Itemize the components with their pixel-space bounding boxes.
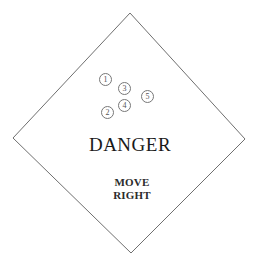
instruction-text: MOVE RIGHT — [0, 176, 256, 201]
marker-circle-1[interactable]: 1 — [99, 73, 112, 86]
marker-circle-3[interactable]: 3 — [118, 82, 131, 95]
marker-label-1: 1 — [104, 75, 108, 84]
diamond-outline-shape — [0, 0, 256, 263]
danger-title: DANGER — [0, 134, 256, 156]
instruction-line-1: MOVE — [8, 176, 256, 189]
instruction-line-2: RIGHT — [8, 189, 256, 202]
marker-label-5: 5 — [146, 92, 150, 101]
warning-sign: 1 2 3 4 5 DANGER MOVE RIGHT — [0, 0, 256, 263]
diamond-polygon — [13, 13, 245, 253]
marker-label-2: 2 — [106, 108, 110, 117]
marker-label-3: 3 — [123, 84, 127, 93]
marker-circle-5[interactable]: 5 — [141, 90, 154, 103]
marker-label-4: 4 — [123, 101, 127, 110]
marker-circle-4[interactable]: 4 — [118, 99, 131, 112]
marker-circle-2[interactable]: 2 — [101, 106, 114, 119]
